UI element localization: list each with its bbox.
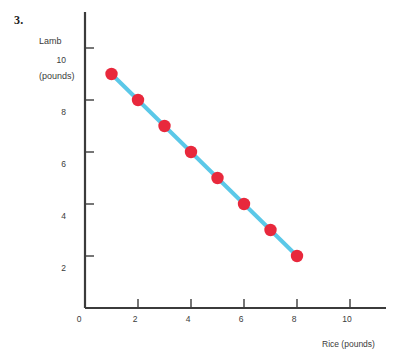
x-axis-ticks [138,299,350,307]
plot-area [0,0,400,359]
y-axis-ticks [86,48,94,256]
data-point-8-2 [291,250,303,262]
data-point-7-3 [264,224,276,236]
data-point-3-7 [158,120,170,132]
data-point-1-9 [105,68,117,80]
data-point-2-8 [132,94,144,106]
data-point-6-4 [238,198,250,210]
data-point-4-6 [185,146,197,158]
figure-problem-3: 3. Lamb (pounds) Rice (pounds) 10 8 6 4 … [0,0,400,359]
data-point-5-5 [211,172,223,184]
